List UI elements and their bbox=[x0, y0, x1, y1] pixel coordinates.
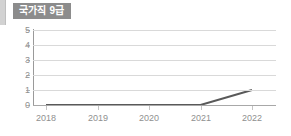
y-tick-label-5: 5 bbox=[12, 26, 30, 35]
y-tick-label-4: 4 bbox=[12, 41, 30, 50]
y-tick-label-3: 3 bbox=[12, 56, 30, 65]
x-tick-label-2021: 2021 bbox=[181, 114, 221, 123]
x-tick-2019 bbox=[98, 106, 99, 110]
y-tick-label-0: 0 bbox=[12, 101, 30, 110]
x-tick-label-2018: 2018 bbox=[26, 114, 66, 123]
x-axis-ticks bbox=[33, 106, 276, 111]
x-tick-2018 bbox=[46, 106, 47, 110]
cropped-edge-element bbox=[0, 0, 6, 25]
x-tick-label-2020: 2020 bbox=[129, 114, 169, 123]
gridline-y-1 bbox=[33, 90, 276, 91]
chart-title-badge: 국가직 9급 bbox=[13, 3, 71, 19]
x-tick-2021 bbox=[201, 106, 202, 110]
x-tick-label-2022: 2022 bbox=[232, 114, 272, 123]
gridline-y-2 bbox=[33, 75, 276, 76]
y-axis-labels: 012345 bbox=[10, 30, 30, 105]
x-tick-label-2019: 2019 bbox=[78, 114, 118, 123]
gridline-y-5 bbox=[33, 30, 276, 31]
gridline-y-3 bbox=[33, 60, 276, 61]
chart-screenshot: 국가직 9급 012345 20182019202020212022 bbox=[0, 0, 291, 136]
y-tick-label-2: 2 bbox=[12, 71, 30, 80]
gridline-y-4 bbox=[33, 45, 276, 46]
x-tick-2020 bbox=[149, 106, 150, 110]
x-tick-2022 bbox=[252, 106, 253, 110]
plot-area bbox=[33, 30, 276, 105]
x-axis-labels: 20182019202020212022 bbox=[33, 114, 276, 126]
data-series-line bbox=[33, 30, 276, 105]
y-tick-label-1: 1 bbox=[12, 86, 30, 95]
